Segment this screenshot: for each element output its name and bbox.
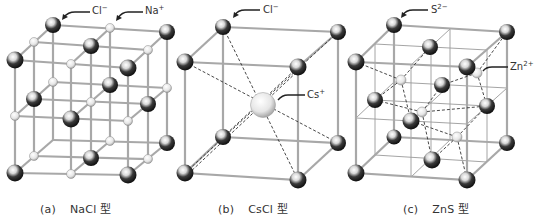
label-na: Na+ <box>145 4 164 16</box>
caption-zns: (c)ZnS 型 <box>403 200 469 216</box>
label-cs: Cs+ <box>307 88 325 100</box>
label-cl-cscl: Cl− <box>263 3 279 15</box>
cl-ion <box>159 24 175 40</box>
cscl-leader-lines <box>235 10 305 100</box>
caption-cscl: (b)CsCl 型 <box>218 200 288 216</box>
cs-ion <box>251 93 276 118</box>
caption-name: NaCl 型 <box>70 203 111 216</box>
caption-nacl: (a)NaCl 型 <box>40 200 111 216</box>
label-s: S2− <box>431 3 448 15</box>
zns-lattice <box>348 10 516 189</box>
label-cl-nacl: Cl− <box>92 4 108 16</box>
zn-ion <box>452 132 462 142</box>
caption-name: ZnS 型 <box>432 203 469 216</box>
caption-name: CsCl 型 <box>248 203 288 216</box>
caption-index: (a) <box>40 203 56 216</box>
zn-ion <box>417 107 427 117</box>
label-zn: Zn2+ <box>510 60 534 72</box>
zn-ion <box>396 75 406 85</box>
cl-ion <box>45 17 61 33</box>
cscl-ions <box>177 19 347 189</box>
crystal-structures-figure <box>0 0 534 223</box>
nacl-lattice <box>7 12 176 184</box>
zns-leader-lines <box>403 10 508 71</box>
na-ion <box>106 24 115 33</box>
caption-index: (b) <box>218 203 234 216</box>
caption-index: (c) <box>403 203 418 216</box>
